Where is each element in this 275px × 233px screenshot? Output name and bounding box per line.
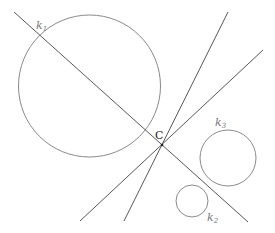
circle-k1 xyxy=(19,15,161,157)
label-k1: k1 xyxy=(36,19,47,33)
label-point-c: C xyxy=(155,129,163,142)
circle-k2 xyxy=(176,185,208,217)
line-3 xyxy=(80,50,263,221)
label-k3: k3 xyxy=(215,116,227,130)
label-k2: k2 xyxy=(207,211,219,225)
point-c-marker xyxy=(161,144,164,147)
line-1 xyxy=(14,12,248,222)
geometry-diagram: k1 k3 k2 C xyxy=(0,0,275,233)
circle-k3 xyxy=(200,130,256,186)
